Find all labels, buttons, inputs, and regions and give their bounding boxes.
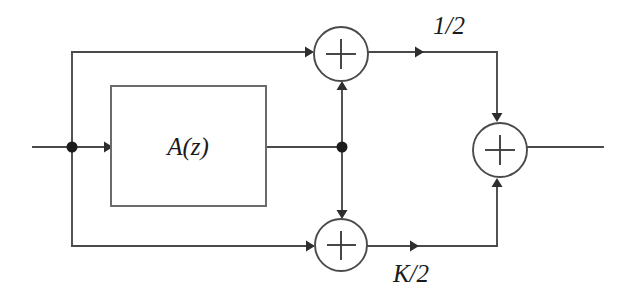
arrowhead-bottom-adder-top-input <box>337 210 348 219</box>
az-output-split-node <box>337 142 348 153</box>
arrowhead-lower-branch <box>410 241 419 252</box>
arrowhead-bottom-adder-left-input <box>306 241 315 252</box>
az-block-label: A(z) <box>165 133 209 161</box>
lower-branch-gain-label: K/2 <box>392 260 429 287</box>
input-split-node <box>67 142 78 153</box>
diagram-canvas: A(z) 1/2 K/2 + + + <box>0 0 625 300</box>
arrowhead-upper-branch <box>415 47 424 58</box>
arrowhead-top-adder-bottom-input <box>337 81 348 90</box>
arrowhead-output-adder-top-input <box>492 113 503 122</box>
signal-flow-diagram: A(z) 1/2 K/2 + + + <box>0 0 625 300</box>
arrowhead-output-adder-bottom-input <box>492 178 503 187</box>
arrowhead-top-adder-left-input <box>305 47 314 58</box>
upper-branch-gain-label: 1/2 <box>433 12 465 39</box>
